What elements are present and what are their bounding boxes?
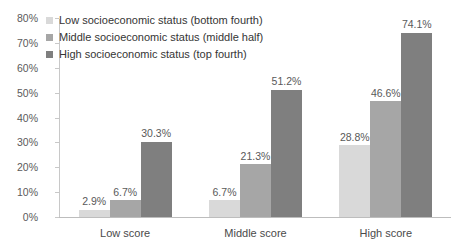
y-axis-tick-label: 40%: [0, 112, 38, 123]
x-axis-category-label: Low score: [60, 228, 190, 239]
y-axis-tick-mark: [55, 18, 59, 19]
y-axis: 0%10%20%30%40%50%60%70%80%: [0, 0, 38, 252]
y-axis-tick-mark: [55, 43, 59, 44]
y-axis-tick-mark: [55, 68, 59, 69]
bar-value-label: 30.3%: [135, 128, 178, 139]
y-axis-tick-mark: [55, 217, 59, 218]
y-axis-tick-label: 60%: [0, 63, 38, 74]
bar: [110, 200, 141, 217]
bar: [401, 33, 432, 217]
legend-swatch-icon: [46, 51, 53, 58]
bar: [370, 101, 401, 217]
y-axis-tick-mark: [55, 167, 59, 168]
legend-item-label: Low socioeconomic status (bottom fourth): [59, 13, 263, 28]
bar-value-label: 74.1%: [395, 19, 438, 30]
bar: [271, 90, 302, 217]
y-axis-tick-label: 0%: [0, 212, 38, 223]
x-axis-category-label: High score: [321, 228, 451, 239]
x-axis-category-label: Middle score: [190, 228, 320, 239]
bar: [339, 145, 370, 217]
bar-group: 28.8%46.6%74.1%: [339, 18, 432, 217]
legend-swatch-icon: [46, 17, 53, 24]
y-axis-tick-mark: [55, 142, 59, 143]
y-axis-tick-mark: [55, 93, 59, 94]
bar: [79, 210, 110, 217]
bar: [240, 164, 271, 217]
legend-item-label: Middle socioeconomic status (middle half…: [59, 30, 263, 45]
y-axis-tick-label: 30%: [0, 137, 38, 148]
bar: [209, 200, 240, 217]
bar: [141, 142, 172, 217]
legend-item-label: High socioeconomic status (top fourth): [59, 47, 247, 62]
y-axis-tick-label: 50%: [0, 87, 38, 98]
y-axis-tick-label: 10%: [0, 187, 38, 198]
x-axis-line: [59, 217, 451, 218]
y-axis-tick-label: 70%: [0, 38, 38, 49]
bar-value-label: 51.2%: [265, 76, 308, 87]
y-axis-tick-label: 80%: [0, 13, 38, 24]
y-axis-tick-label: 20%: [0, 162, 38, 173]
legend-swatch-icon: [46, 34, 53, 41]
bar-chart: 0%10%20%30%40%50%60%70%80% 2.9%6.7%30.3%…: [0, 0, 454, 252]
y-axis-tick-mark: [55, 118, 59, 119]
y-axis-tick-mark: [55, 192, 59, 193]
